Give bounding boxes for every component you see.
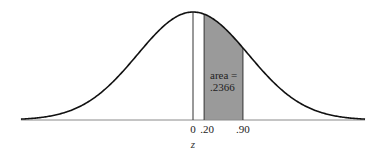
tick-label-090: .90 [236,123,250,135]
tick-label-020: .20 [200,123,214,135]
shaded-area-region [204,14,243,120]
normal-curve-chart: area = .2366 0 .20 .90 z [0,0,383,156]
area-annotation-line1: area = [210,69,237,81]
area-annotation-value: .2366 [210,81,235,93]
x-axis-label: z [190,138,196,150]
tick-label-0: 0 [190,123,196,135]
normal-distribution-figure: area = .2366 0 .20 .90 z [0,0,383,156]
